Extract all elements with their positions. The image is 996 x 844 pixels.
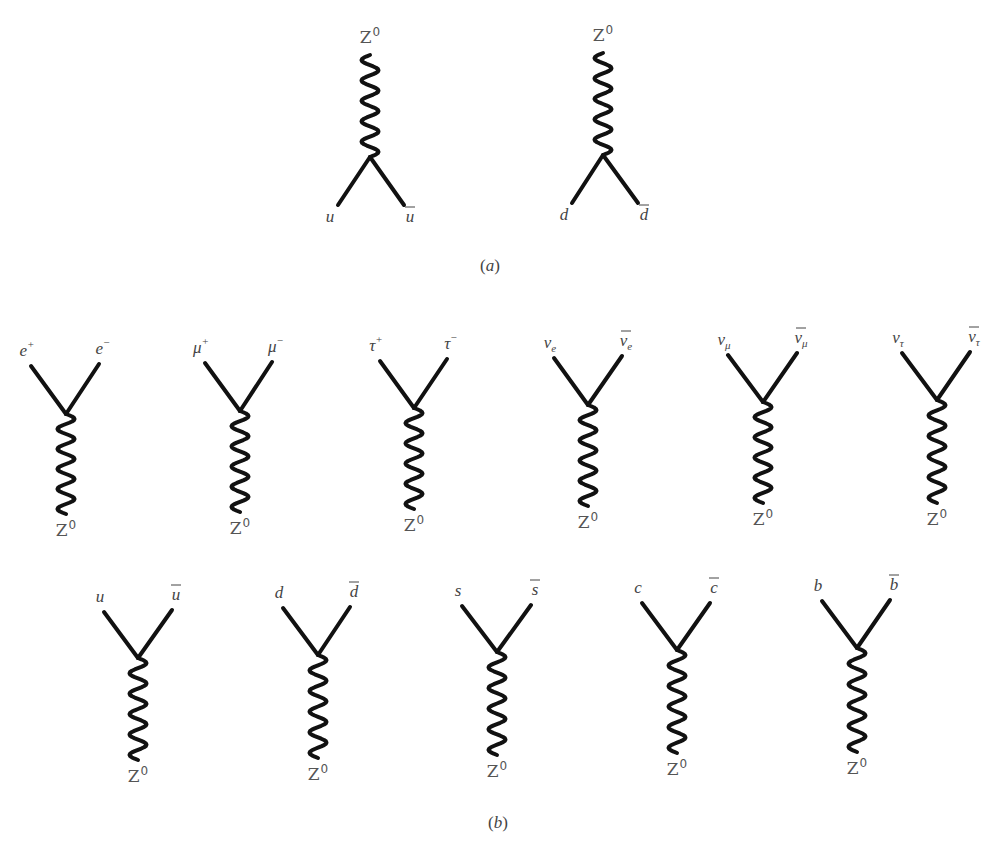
z-boson-propagator — [406, 408, 423, 509]
particle-label-left: d — [275, 583, 284, 602]
fermion-line-right — [138, 610, 172, 658]
z-boson-propagator — [755, 402, 772, 503]
particle-label-left: s — [455, 581, 462, 600]
feynman-vertex-b-8: Z0ss — [455, 580, 540, 781]
particle-label-left: u — [96, 587, 105, 606]
z-boson-propagator — [232, 411, 249, 512]
particle-label-right: d — [350, 582, 359, 601]
particle-label-left: τ+ — [369, 333, 383, 355]
panel-b: Z0e+e−Z0μ+μ−Z0τ+τ−Z0νeνeZ0νμνμZ0ντντZ0uu… — [20, 327, 981, 786]
fermion-line-left — [380, 361, 414, 408]
particle-label-right: b — [890, 575, 899, 594]
z-boson-propagator — [362, 55, 379, 157]
particle-label-right: νe — [620, 331, 633, 352]
z-boson-propagator — [595, 53, 612, 155]
fermion-line-left — [338, 157, 370, 205]
feynman-vertex-b-9: Z0cc — [634, 578, 719, 779]
z-boson-propagator — [58, 414, 75, 514]
fermion-line-right — [318, 607, 350, 655]
z-boson-label: Z0 — [847, 756, 867, 778]
fermion-line-left — [554, 358, 588, 405]
fermion-line-left — [822, 601, 857, 648]
fermion-line-left — [572, 155, 603, 203]
z-boson-label: Z0 — [56, 518, 76, 540]
particle-label-right: u — [172, 585, 181, 604]
fermion-line-right — [66, 364, 99, 414]
fermion-line-right — [414, 359, 447, 408]
z-boson-label: Z0 — [128, 764, 148, 786]
particle-label-right: d — [640, 205, 649, 224]
particle-label-left: νe — [544, 333, 557, 354]
feynman-vertex-b-0: Z0e+e− — [20, 336, 111, 540]
particle-label-left: νμ — [717, 330, 731, 351]
feynman-vertex-b-5: Z0ντντ — [892, 327, 981, 529]
panel-a-caption: (a) — [480, 256, 500, 275]
feynman-vertex-b-1: Z0μ+μ− — [192, 334, 284, 538]
feynman-vertex-b-10: Z0bb — [814, 575, 899, 778]
feynman-vertex-a-1: Z0dd — [560, 23, 649, 224]
z-boson-label: Z0 — [360, 25, 380, 47]
particle-label-right: ντ — [968, 327, 981, 348]
particle-label-left: ντ — [892, 328, 905, 349]
fermion-line-left — [283, 608, 318, 655]
z-boson-label: Z0 — [667, 757, 687, 779]
particle-label-right: s — [532, 580, 539, 599]
z-boson-label: Z0 — [230, 516, 250, 538]
z-boson-label: Z0 — [593, 23, 613, 45]
fermion-line-right — [497, 605, 531, 652]
fermion-line-left — [902, 353, 937, 400]
particle-label-right: e− — [96, 336, 111, 358]
particle-label-left: e+ — [20, 338, 35, 360]
feynman-vertex-a-0: Z0uu — [326, 25, 415, 226]
fermion-line-left — [205, 363, 240, 411]
fermion-line-left — [728, 355, 763, 402]
feynman-vertex-b-3: Z0νeνe — [544, 331, 633, 532]
particle-label-right: νμ — [794, 328, 808, 349]
fermion-line-right — [603, 155, 638, 203]
z-boson-label: Z0 — [404, 513, 424, 535]
z-boson-propagator — [929, 400, 946, 503]
fermion-line-right — [857, 600, 890, 648]
particle-label-right: u — [406, 207, 415, 226]
z-boson-propagator — [489, 652, 506, 755]
particle-label-left: d — [560, 205, 569, 224]
fermion-line-right — [677, 603, 710, 650]
particle-label-right: τ− — [444, 331, 458, 353]
z-boson-label: Z0 — [308, 762, 328, 784]
feynman-vertex-b-2: Z0τ+τ− — [369, 331, 458, 535]
z-boson-label: Z0 — [578, 510, 598, 532]
particle-label-left: μ+ — [192, 335, 209, 357]
particle-label-left: u — [326, 207, 335, 226]
fermion-line-right — [240, 362, 272, 411]
panel-a: Z0uuZ0dd — [326, 23, 649, 226]
feynman-vertex-b-4: Z0νμνμ — [717, 328, 808, 529]
particle-label-left: c — [634, 578, 642, 597]
z-boson-label: Z0 — [927, 507, 947, 529]
particle-label-right: c — [710, 578, 718, 597]
fermion-line-left — [462, 606, 497, 652]
z-boson-propagator — [580, 405, 597, 506]
fermion-line-right — [937, 352, 970, 400]
z-boson-propagator — [310, 655, 327, 758]
fermion-line-left — [31, 366, 66, 414]
z-boson-propagator — [849, 648, 866, 752]
z-boson-propagator — [669, 650, 686, 753]
fermion-line-right — [763, 353, 797, 402]
fermion-line-left — [642, 603, 677, 650]
z-boson-label: Z0 — [753, 507, 773, 529]
feynman-diagram-figure: Z0uuZ0dd (a) Z0e+e−Z0μ+μ−Z0τ+τ−Z0νeνeZ0ν… — [0, 0, 996, 844]
fermion-line-right — [370, 157, 404, 205]
feynman-vertex-b-7: Z0dd — [275, 582, 359, 784]
panel-b-caption: (b) — [488, 813, 508, 832]
feynman-vertex-b-6: Z0uu — [96, 585, 181, 786]
particle-label-left: b — [814, 576, 823, 595]
fermion-line-left — [104, 612, 138, 658]
z-boson-label: Z0 — [487, 759, 507, 781]
fermion-line-right — [588, 356, 622, 405]
z-boson-propagator — [130, 658, 147, 760]
particle-label-right: μ− — [267, 334, 284, 356]
